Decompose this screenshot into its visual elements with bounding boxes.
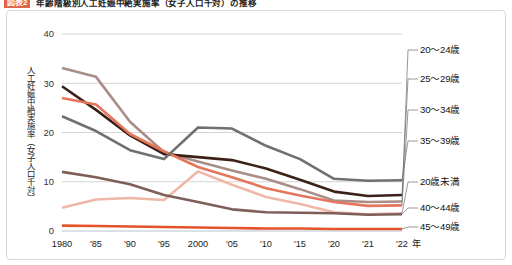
chart-page: 図表2 年齢階級別人工妊娠中絶実施率（女子人口千対）の推移 人工妊娠中絶実施率（… <box>0 0 512 265</box>
chart-plot-area: 4030201001980'85'90'952000'05'10'15'20'2… <box>40 22 460 247</box>
y-axis-tick-label: 30 <box>44 78 54 89</box>
x-axis-tick-label: '21 <box>362 239 374 249</box>
figure-title-text: 年齢階級別人工妊娠中絶実施率（女子人口千対）の推移 <box>36 0 256 8</box>
x-axis-tick-label: '90 <box>124 239 136 249</box>
figure-number-badge: 図表2 <box>4 0 30 8</box>
legend-leader-line-30〜34歳 <box>402 110 418 205</box>
legend-label-20〜24歳: 20〜24歳 <box>420 44 460 55</box>
series-line-45〜49歳 <box>62 226 402 229</box>
x-axis-tick-label: '85 <box>90 239 102 249</box>
x-axis-tick-label: '95 <box>158 239 170 249</box>
legend-leader-line-20歳未満 <box>402 182 418 213</box>
legend-label-30〜34歳: 30〜34歳 <box>420 104 460 115</box>
x-axis-tick-label: '05 <box>226 239 238 249</box>
legend-label-40〜44歳: 40〜44歳 <box>420 202 460 213</box>
y-axis-tick-label: 0 <box>49 225 54 236</box>
y-axis-tick-label: 20 <box>44 127 54 138</box>
legend-leader-line-45〜49歳 <box>402 227 418 229</box>
y-axis-tick-label: 10 <box>44 176 54 187</box>
x-axis-tick-label: '20 <box>328 239 340 249</box>
legend-leader-line-20〜24歳 <box>402 50 418 201</box>
line-chart-svg: 4030201001980'85'90'952000'05'10'15'20'2… <box>40 22 460 247</box>
legend-label-45〜49歳: 45〜49歳 <box>420 221 460 232</box>
legend-label-25〜29歳: 25〜29歳 <box>420 73 460 84</box>
x-axis-tick-label: 1980 <box>52 239 72 249</box>
x-axis-tick-label: 2000 <box>188 239 208 249</box>
series-line-30〜34歳 <box>62 98 402 206</box>
legend-leader-line-40〜44歳 <box>402 208 418 214</box>
legend-label-35〜39歳: 35〜39歳 <box>420 135 460 146</box>
x-axis-tick-label: '22 <box>396 239 408 249</box>
x-axis-unit-label: 年 <box>412 238 421 249</box>
x-axis-tick-label: '10 <box>260 239 272 249</box>
y-axis-tick-label: 40 <box>44 28 54 39</box>
legend-label-20歳未満: 20歳未満 <box>420 176 460 187</box>
x-axis-tick-label: '15 <box>294 239 306 249</box>
y-axis-label: 人工妊娠中絶実施率（女子人口千対） <box>20 44 34 224</box>
